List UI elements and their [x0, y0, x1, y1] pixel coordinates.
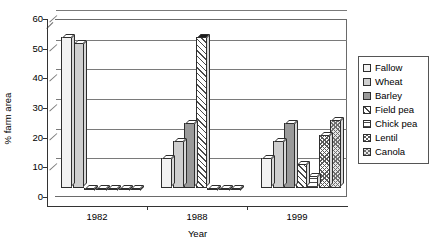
y-tick-mark: [43, 49, 47, 50]
bar-fallow-1999: [261, 158, 272, 188]
bar-side-face: [71, 34, 75, 187]
y-tick-label: 60: [32, 14, 43, 24]
legend-item-label: Wheat: [375, 77, 402, 87]
legend-item-label: Canola: [375, 147, 405, 157]
chart-legend: FallowWheatBarleyField peaChick peaLenti…: [358, 56, 429, 164]
y-tick-mark: [43, 108, 47, 109]
legend-swatch-icon: [363, 120, 371, 128]
y-tick-label: 50: [32, 44, 43, 54]
legend-item-lentil[interactable]: Lentil: [363, 131, 425, 145]
y-tick-label: 30: [32, 103, 43, 113]
chart-figure: 0102030405060 198219881999 % farm area Y…: [0, 0, 435, 247]
legend-item-label: Fallow: [375, 63, 402, 73]
legend-item-fallow[interactable]: Fallow: [363, 61, 425, 75]
bar-side-face: [340, 117, 344, 187]
y-tick-mark: [43, 78, 47, 79]
legend-item-chick-pea[interactable]: Chick pea: [363, 117, 425, 131]
legend-item-label: Lentil: [375, 133, 398, 143]
bar-lentil-1982: [119, 188, 130, 190]
bar-side-face: [294, 120, 298, 187]
bar-side-face: [306, 161, 310, 187]
legend-swatch-icon: [363, 134, 371, 142]
legend-swatch-icon: [363, 64, 371, 72]
legend-item-barley[interactable]: Barley: [363, 89, 425, 103]
bar-lentil-1988: [219, 188, 230, 190]
legend-item-canola[interactable]: Canola: [363, 145, 425, 159]
legend-swatch-icon: [363, 92, 371, 100]
y-tick-mark: [43, 197, 47, 198]
y-tick-label: 40: [32, 74, 43, 84]
bar-side-face: [83, 40, 87, 187]
y-tick-mark: [43, 138, 47, 139]
bar-field-pea-1982: [96, 188, 107, 190]
y-axis-title: % farm area: [2, 74, 13, 164]
x-tick-label: 1982: [67, 211, 127, 222]
legend-swatch-icon: [363, 148, 371, 156]
y-tick-mark: [43, 19, 47, 20]
y-tick-label: 10: [32, 163, 43, 173]
legend-item-label: Field pea: [375, 105, 414, 115]
gridline: [56, 10, 347, 11]
bar-side-face: [183, 138, 187, 187]
legend-swatch-icon: [363, 106, 371, 114]
plot-area: [47, 19, 347, 206]
x-tick-mark: [247, 206, 248, 210]
bar-side-face: [194, 120, 198, 187]
x-tick-label: 1999: [267, 211, 327, 222]
legend-item-field-pea[interactable]: Field pea: [363, 103, 425, 117]
x-tick-mark: [147, 206, 148, 210]
bar-side-face: [206, 34, 210, 187]
legend-item-label: Chick pea: [375, 119, 417, 129]
y-tick-label: 20: [32, 133, 43, 143]
bar-side-face: [171, 155, 175, 187]
bar-side-face: [329, 132, 333, 187]
bar-side-face: [283, 138, 287, 187]
x-axis-title: Year: [47, 228, 348, 239]
y-axis-line: [47, 19, 48, 207]
x-tick-label: 1988: [167, 211, 227, 222]
bar-fallow-1988: [161, 158, 172, 188]
legend-swatch-icon: [363, 78, 371, 86]
y-tick-mark: [43, 167, 47, 168]
bar-barley-1982: [84, 188, 95, 190]
bar-fallow-1982: [61, 37, 72, 188]
bar-chick-pea-1988: [207, 188, 218, 190]
x-axis-line: [47, 206, 348, 207]
legend-item-label: Barley: [375, 91, 402, 101]
bar-side-face: [271, 155, 275, 187]
legend-item-wheat[interactable]: Wheat: [363, 75, 425, 89]
